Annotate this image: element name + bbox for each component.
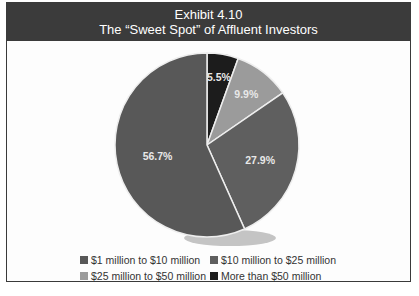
legend-item: $1 million to $10 million <box>80 254 210 266</box>
legend-label: $10 million to $25 million <box>221 254 336 266</box>
slice-label: 56.7% <box>143 150 173 162</box>
legend-item: More than $50 million <box>210 270 321 282</box>
legend-item: $10 million to $25 million <box>210 254 336 266</box>
legend-swatch <box>80 256 88 264</box>
legend-swatch <box>210 272 218 280</box>
legend-item: $25 million to $50 million <box>80 270 210 282</box>
legend-swatch <box>210 256 218 264</box>
legend-swatch <box>80 272 88 280</box>
legend-label: $1 million to $10 million <box>91 254 200 266</box>
legend-label: More than $50 million <box>221 270 321 282</box>
slice-label: 27.9% <box>245 154 275 166</box>
slice-label: 5.5% <box>207 71 232 83</box>
legend-label: $25 million to $50 million <box>91 270 206 282</box>
slice-label: 9.9% <box>234 88 259 100</box>
legend: $1 million to $10 million $10 million to… <box>80 252 380 284</box>
